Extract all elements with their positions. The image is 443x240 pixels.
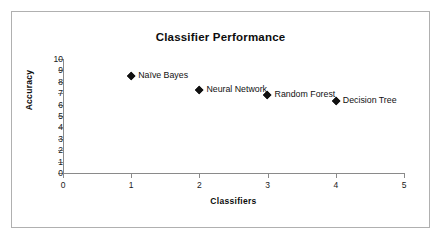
y-tick-label: 7 — [38, 89, 63, 97]
diamond-marker-icon — [263, 91, 272, 100]
y-tick-label-text: 5 — [49, 112, 63, 120]
x-tick-mark — [199, 173, 200, 178]
data-point-label: Neural Network — [206, 84, 267, 94]
x-tick-mark — [404, 173, 405, 178]
y-tick-label: 1 — [38, 158, 63, 166]
y-tick-label: 8 — [38, 78, 63, 86]
y-tick-label-text: 6 — [49, 101, 63, 109]
y-tick-label-text: 10 — [49, 55, 63, 63]
x-tick-mark — [63, 173, 64, 178]
y-tick-label: 3 — [38, 135, 63, 143]
plot-area: 012345678910 012345 Accuracy Classifiers… — [0, 0, 443, 240]
y-tick-label-text: 9 — [49, 66, 63, 74]
y-tick-label: 9 — [38, 66, 63, 74]
x-axis-title: Classifiers — [63, 196, 404, 206]
y-tick-label-text: 8 — [49, 78, 63, 86]
y-tick-label-text: 0 — [49, 169, 63, 177]
y-axis-title: Accuracy — [24, 55, 34, 125]
x-tick-mark — [268, 173, 269, 178]
y-tick-label: 5 — [38, 112, 63, 120]
x-tick-mark — [131, 173, 132, 178]
y-tick-label-text: 2 — [49, 146, 63, 154]
x-tick-label: 5 — [392, 180, 416, 190]
y-tick-label: 6 — [38, 101, 63, 109]
y-axis-line — [63, 59, 64, 174]
data-point-label: Decision Tree — [343, 95, 397, 105]
y-tick-label-text: 3 — [49, 135, 63, 143]
x-tick-label: 3 — [256, 180, 280, 190]
x-tick-label: 0 — [51, 180, 75, 190]
y-tick-label: 2 — [38, 146, 63, 154]
data-point-label: Random Forest — [275, 89, 336, 99]
x-axis-line — [63, 173, 404, 174]
y-tick-label: 10 — [38, 55, 63, 63]
y-tick-label-text: 1 — [49, 158, 63, 166]
x-tick-mark — [336, 173, 337, 178]
x-tick-label: 2 — [187, 180, 211, 190]
y-tick-label-text: 7 — [49, 89, 63, 97]
y-tick-label: 4 — [38, 123, 63, 131]
y-tick-label: 0 — [38, 169, 63, 177]
x-tick-label: 4 — [324, 180, 348, 190]
y-tick-label-text: 4 — [49, 123, 63, 131]
diamond-marker-icon — [195, 85, 204, 94]
data-point-label: Naïve Bayes — [138, 70, 188, 80]
x-tick-label: 1 — [119, 180, 143, 190]
diamond-marker-icon — [127, 72, 136, 81]
